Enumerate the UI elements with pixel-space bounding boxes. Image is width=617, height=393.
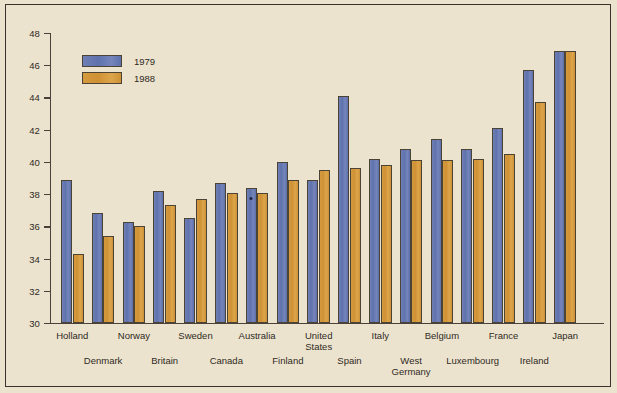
y-tick-value: 48 <box>29 28 40 39</box>
x-label-australia: Australia <box>239 330 276 341</box>
x-label-sweden: Sweden <box>178 330 212 341</box>
bar-spain-1979 <box>338 96 349 323</box>
x-label-line: France <box>489 330 519 341</box>
bar-finland-1979 <box>277 162 288 323</box>
y-tick-48 <box>44 33 50 34</box>
bar-denmark-1979 <box>92 213 103 323</box>
y-tick-value: 44 <box>29 92 40 103</box>
x-label-line: Japan <box>552 330 578 341</box>
x-label-line: Norway <box>118 330 150 341</box>
bar-canada-1988 <box>227 193 238 324</box>
bar-belgium-1988 <box>442 160 453 323</box>
y-tick-value: 30 <box>29 318 40 329</box>
legend-entry-1988: 1988 <box>82 72 155 84</box>
x-label-line: Germany <box>392 366 431 377</box>
bar-holland-1988 <box>73 254 84 323</box>
bar-finland-1988 <box>288 180 299 323</box>
x-axis-line <box>50 323 604 324</box>
y-tick-value: 46 <box>29 60 40 71</box>
bar-norway-1979 <box>123 222 134 324</box>
x-label-denmark: Denmark <box>84 355 123 366</box>
x-label-line: States <box>305 341 332 352</box>
y-tick-value: 42 <box>29 124 40 135</box>
x-label-canada: Canada <box>210 355 243 366</box>
bar-japan-1979 <box>554 51 565 323</box>
y-tick-value: 38 <box>29 189 40 200</box>
x-label-line: Luxembourg <box>446 355 499 366</box>
x-label-luxembourg: Luxembourg <box>446 355 499 366</box>
chart-legend: 1979 1988 <box>82 55 155 89</box>
bar-france-1979 <box>492 128 503 323</box>
x-label-line: Britain <box>151 355 178 366</box>
bar-holland-1979 <box>61 180 72 323</box>
x-label-line: United <box>305 330 332 341</box>
bar-sweden-1979 <box>184 218 195 323</box>
x-label-line: Australia <box>239 330 276 341</box>
x-label-ireland: Ireland <box>520 355 549 366</box>
x-label-norway: Norway <box>118 330 150 341</box>
x-label-britain: Britain <box>151 355 178 366</box>
x-label-united-states: UnitedStates <box>305 330 332 352</box>
bar-denmark-1988 <box>103 236 114 323</box>
x-label-line: Spain <box>337 355 361 366</box>
x-label-line: West <box>392 355 431 366</box>
x-label-line: Finland <box>272 355 303 366</box>
y-tick-value: 32 <box>29 285 40 296</box>
y-tick-46 <box>44 65 50 66</box>
y-tick-34 <box>44 259 50 260</box>
bar-australia-1988 <box>257 193 268 324</box>
bar-luxembourg-1988 <box>473 159 484 323</box>
bar-spain-1988 <box>350 168 361 323</box>
bar-sweden-1988 <box>196 199 207 323</box>
x-label-france: France <box>489 330 519 341</box>
x-label-line: Canada <box>210 355 243 366</box>
bar-united-states-1988 <box>319 170 330 323</box>
x-label-finland: Finland <box>272 355 303 366</box>
bar-norway-1988 <box>134 226 145 323</box>
legend-swatch-1988 <box>82 72 122 84</box>
legend-label-1979: 1979 <box>134 56 155 67</box>
x-label-line: Holland <box>56 330 88 341</box>
chart-page: 30323436384042444648 HollandDenmarkNorwa… <box>0 0 617 393</box>
x-label-line: Denmark <box>84 355 123 366</box>
x-label-line: Italy <box>372 330 389 341</box>
bar-ireland-1988 <box>535 102 546 323</box>
chart-frame: 30323436384042444648 HollandDenmarkNorwa… <box>5 4 611 387</box>
y-axis-line <box>50 33 51 324</box>
x-label-japan: Japan <box>552 330 578 341</box>
y-tick-36 <box>44 226 50 227</box>
y-tick-value: 40 <box>29 156 40 167</box>
x-label-belgium: Belgium <box>425 330 459 341</box>
y-tick-40 <box>44 162 50 163</box>
y-tick-30 <box>44 323 50 324</box>
y-tick-38 <box>44 194 50 195</box>
bar-west-germany-1988 <box>411 160 422 323</box>
x-label-spain: Spain <box>337 355 361 366</box>
x-label-west-germany: WestGermany <box>392 355 431 377</box>
bar-britain-1988 <box>165 205 176 323</box>
bar-ireland-1979 <box>523 70 534 323</box>
bar-australia-1979 <box>246 188 257 323</box>
x-label-italy: Italy <box>372 330 389 341</box>
bar-west-germany-1979 <box>400 149 411 323</box>
y-tick-value: 36 <box>29 221 40 232</box>
bar-luxembourg-1979 <box>461 149 472 323</box>
x-label-line: Ireland <box>520 355 549 366</box>
x-label-line: Sweden <box>178 330 212 341</box>
x-label-line: Belgium <box>425 330 459 341</box>
bar-belgium-1979 <box>431 139 442 323</box>
bar-canada-1979 <box>215 183 226 323</box>
legend-swatch-1979 <box>82 55 122 67</box>
y-tick-42 <box>44 130 50 131</box>
bar-britain-1979 <box>153 191 164 323</box>
asterisk-marker-icon <box>250 197 253 200</box>
y-tick-32 <box>44 291 50 292</box>
legend-entry-1979: 1979 <box>82 55 155 67</box>
bar-japan-1988 <box>565 51 576 323</box>
x-label-holland: Holland <box>56 330 88 341</box>
bar-italy-1988 <box>381 165 392 323</box>
bar-united-states-1979 <box>307 180 318 323</box>
y-tick-value: 34 <box>29 253 40 264</box>
bar-france-1988 <box>504 154 515 323</box>
bar-italy-1979 <box>369 159 380 323</box>
